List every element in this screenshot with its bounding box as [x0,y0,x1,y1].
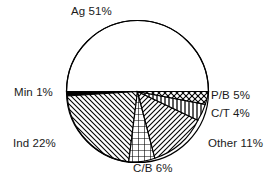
pie-label-ind: Ind 22% [13,137,56,150]
pie-label-ag: Ag 51% [71,5,112,18]
pie-slice-ag [67,21,209,92]
pie-chart-figure: Ag 51% Min 1% Ind 22% C/B 6% Other 11% C… [0,0,274,181]
pie-label-cb: C/B 6% [133,162,173,175]
pie-label-min: Min 1% [14,86,53,99]
pie-label-ct: C/T 4% [211,107,250,120]
pie-slice-ind [67,92,137,163]
pie-label-pb: P/B 5% [211,89,250,102]
pie-label-other: Other 11% [208,137,263,150]
